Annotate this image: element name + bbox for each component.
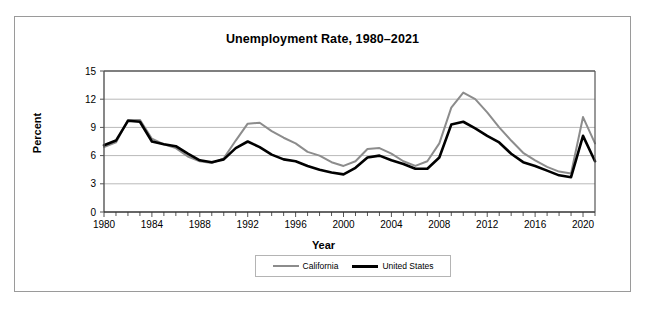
chart-legend: California United States xyxy=(255,255,451,277)
x-tick-label: 1996 xyxy=(284,219,307,230)
legend-label-united-states: United States xyxy=(382,261,433,271)
plot-area: Percent Year 03691215 198019841988199219… xyxy=(15,17,632,293)
legend-item-united-states: United States xyxy=(352,261,433,271)
y-tick-label: 6 xyxy=(90,150,96,161)
legend-item-california: California xyxy=(273,261,339,271)
legend-label-california: California xyxy=(303,261,339,271)
chart-frame: Unemployment Rate, 1980–2021 Percent Yea… xyxy=(14,16,631,292)
line-chart-svg: 03691215 1980198419881992199620002004200… xyxy=(15,17,632,247)
x-tick-label: 2016 xyxy=(524,219,547,230)
data-series xyxy=(104,93,595,178)
axis-lines xyxy=(104,71,595,212)
x-tick-marks xyxy=(104,212,595,217)
x-tick-label: 2000 xyxy=(332,219,355,230)
x-tick-label: 1980 xyxy=(93,219,116,230)
x-tick-label: 2012 xyxy=(476,219,499,230)
x-tick-label: 1988 xyxy=(189,219,212,230)
y-tick-label: 9 xyxy=(90,122,96,133)
y-tick-label: 0 xyxy=(90,207,96,218)
y-tick-label: 3 xyxy=(90,178,96,189)
x-tick-label: 1984 xyxy=(141,219,164,230)
y-tick-label: 15 xyxy=(85,66,97,77)
legend-line-united-states-icon xyxy=(352,265,378,268)
x-tick-labels: 1980198419881992199620002004200820122016… xyxy=(93,219,595,230)
y-tick-label: 12 xyxy=(85,94,97,105)
legend-line-california-icon xyxy=(273,265,299,267)
chart-figure: Unemployment Rate, 1980–2021 Percent Yea… xyxy=(0,0,650,309)
x-tick-label: 1992 xyxy=(237,219,260,230)
gridlines xyxy=(100,71,595,212)
x-tick-label: 2004 xyxy=(380,219,403,230)
x-tick-label: 2020 xyxy=(572,219,595,230)
y-tick-labels: 03691215 xyxy=(85,66,97,218)
x-tick-label: 2008 xyxy=(428,219,451,230)
